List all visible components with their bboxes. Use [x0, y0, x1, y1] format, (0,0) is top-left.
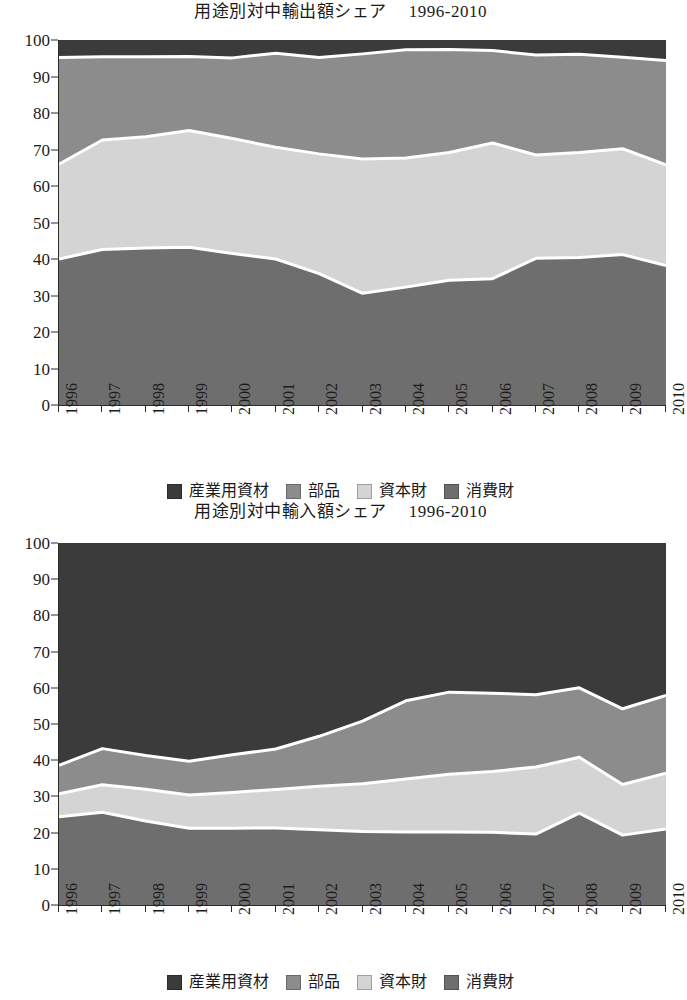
x-axis-tick-mark: [405, 905, 406, 912]
legend-item-label: 消費財: [466, 974, 514, 990]
export-plot-area: [58, 40, 666, 405]
export-legend: 産業用資材部品資本財消費財: [0, 481, 681, 501]
x-axis-tick-mark: [665, 405, 666, 412]
legend-item-3[interactable]: 資本財: [357, 974, 427, 990]
x-axis-tick-label: 2008: [584, 383, 600, 415]
x-axis-tick-mark: [188, 405, 189, 412]
stacked-area-svg: [59, 543, 666, 905]
y-axis-tick-label: 100: [6, 32, 50, 49]
legend-swatch-icon: [357, 484, 372, 499]
y-axis-tick-label: 0: [6, 897, 50, 914]
legend-swatch-icon: [444, 484, 459, 499]
y-axis-tick-label: 60: [6, 679, 50, 696]
y-axis-tick-mark: [51, 295, 58, 296]
x-axis-tick-label: 1998: [151, 883, 167, 915]
x-axis-tick-mark: [535, 405, 536, 412]
y-axis-tick-mark: [51, 405, 58, 406]
x-axis-tick-mark: [492, 905, 493, 912]
y-axis-tick-mark: [51, 76, 58, 77]
y-axis-tick-mark: [51, 222, 58, 223]
x-axis-tick-mark: [578, 905, 579, 912]
y-axis-tick-mark: [51, 832, 58, 833]
legend-item-3[interactable]: 資本財: [357, 483, 427, 499]
legend-item-label: 消費財: [466, 483, 514, 499]
x-axis-tick-label: 2004: [411, 883, 427, 915]
y-axis-tick-mark: [51, 113, 58, 114]
x-axis-tick-label: 2010: [671, 883, 687, 915]
x-axis-tick-mark: [231, 905, 232, 912]
legend-item-label: 資本財: [379, 974, 427, 990]
y-axis-tick-mark: [51, 615, 58, 616]
x-axis-tick-label: 1996: [64, 883, 80, 915]
x-axis-tick-label: 2003: [368, 383, 384, 415]
y-axis-tick-label: 60: [6, 178, 50, 195]
x-axis-tick-mark: [622, 905, 623, 912]
legend-item-label: 部品: [308, 974, 340, 990]
y-axis-tick-mark: [51, 796, 58, 797]
x-axis-tick-label: 1999: [194, 883, 210, 915]
export-figure: 用途別対中輸出額シェア 1996-2010 100908070605040302…: [0, 0, 681, 505]
y-axis-tick-label: 80: [6, 607, 50, 624]
y-axis-tick-mark: [51, 40, 58, 41]
x-axis-tick-label: 2006: [498, 383, 514, 415]
import-figure: 用途別対中輸入額シェア 1996-2010 100908070605040302…: [0, 500, 681, 1000]
legend-item-label: 産業用資材: [189, 974, 269, 990]
legend-item-4[interactable]: 消費財: [444, 974, 514, 990]
x-axis-tick-mark: [275, 405, 276, 412]
x-axis-tick-mark: [318, 405, 319, 412]
import-plot-wrap: 1009080706050403020100199619971998199920…: [0, 500, 681, 1000]
x-axis-tick-label: 2003: [368, 883, 384, 915]
y-axis-tick-label: 100: [6, 535, 50, 552]
y-axis-tick-mark: [51, 186, 58, 187]
y-axis-tick-mark: [51, 368, 58, 369]
x-axis-tick-label: 2005: [454, 883, 470, 915]
y-axis-tick-mark: [51, 332, 58, 333]
x-axis-tick-label: 2007: [541, 383, 557, 415]
x-axis-tick-label: 1996: [64, 383, 80, 415]
y-axis-tick-label: 0: [6, 397, 50, 414]
y-axis-tick-label: 70: [6, 643, 50, 660]
x-axis-tick-label: 2007: [541, 883, 557, 915]
x-axis-tick-mark: [275, 905, 276, 912]
x-axis-tick-label: 2002: [324, 883, 340, 915]
x-axis-tick-label: 2010: [671, 383, 687, 415]
x-axis-tick-label: 1999: [194, 383, 210, 415]
y-axis-tick-mark: [51, 868, 58, 869]
y-axis-tick-label: 20: [6, 324, 50, 341]
y-axis-tick-mark: [51, 651, 58, 652]
y-axis-tick-mark: [51, 724, 58, 725]
y-axis-tick-mark: [51, 259, 58, 260]
y-axis-tick-label: 50: [6, 214, 50, 231]
y-axis-tick-label: 30: [6, 788, 50, 805]
y-axis-tick-mark: [51, 687, 58, 688]
legend-item-2[interactable]: 部品: [286, 483, 340, 499]
legend-item-label: 資本財: [379, 483, 427, 499]
x-axis-tick-mark: [448, 905, 449, 912]
import-legend: 産業用資材部品資本財消費財: [0, 972, 681, 992]
y-axis-tick-mark: [51, 760, 58, 761]
y-axis-tick-label: 40: [6, 752, 50, 769]
x-axis-tick-label: 2000: [237, 883, 253, 915]
legend-swatch-icon: [167, 484, 182, 499]
legend-item-label: 部品: [308, 483, 340, 499]
x-axis-tick-label: 1997: [107, 883, 123, 915]
x-axis-tick-label: 2005: [454, 383, 470, 415]
export-plot-wrap: 1009080706050403020100199619971998199920…: [0, 0, 681, 505]
legend-item-1[interactable]: 産業用資材: [167, 974, 269, 990]
legend-item-2[interactable]: 部品: [286, 974, 340, 990]
x-axis-tick-label: 1998: [151, 383, 167, 415]
y-axis-tick-label: 80: [6, 105, 50, 122]
x-axis-tick-label: 1997: [107, 383, 123, 415]
x-axis-tick-mark: [622, 405, 623, 412]
x-axis-tick-mark: [58, 905, 59, 912]
legend-item-4[interactable]: 消費財: [444, 483, 514, 499]
y-axis-tick-mark: [51, 543, 58, 544]
y-axis-tick-label: 90: [6, 68, 50, 85]
x-axis-tick-mark: [318, 905, 319, 912]
y-axis-tick-mark: [51, 905, 58, 906]
x-axis-tick-mark: [101, 905, 102, 912]
legend-swatch-icon: [444, 975, 459, 990]
legend-item-1[interactable]: 産業用資材: [167, 483, 269, 499]
x-axis-tick-mark: [145, 905, 146, 912]
